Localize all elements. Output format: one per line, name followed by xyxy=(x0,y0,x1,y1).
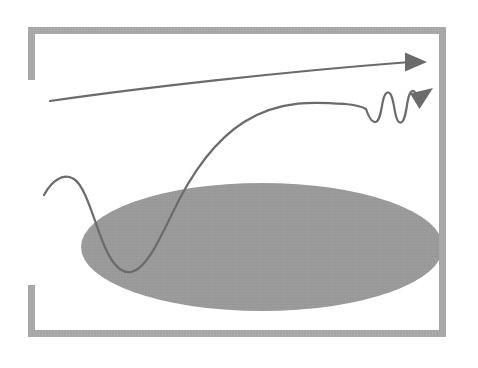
shaded-ellipse xyxy=(81,183,443,311)
shaded-ellipse-shape xyxy=(81,183,443,311)
figure-root xyxy=(0,0,478,368)
diagram-canvas xyxy=(0,0,478,368)
